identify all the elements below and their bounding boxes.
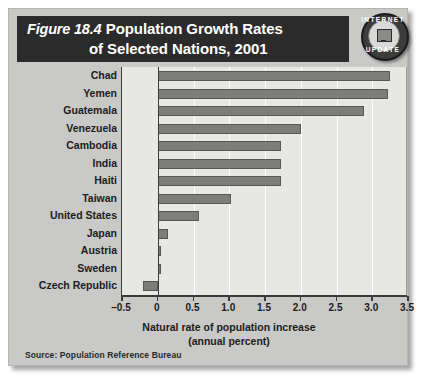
- x-tick-mark: [300, 296, 302, 301]
- bar-row: [122, 120, 406, 138]
- bar[interactable]: [158, 229, 169, 239]
- bar[interactable]: [158, 71, 390, 81]
- category-label: Haiti: [19, 173, 117, 191]
- x-tick-label: 2.0: [280, 302, 320, 313]
- bar[interactable]: [158, 159, 282, 169]
- bar-row: [122, 172, 406, 190]
- x-tick-label: –0.5: [101, 302, 141, 313]
- bar[interactable]: [158, 141, 282, 151]
- category-axis-labels: ChadYemenGuatemalaVenezuelaCambodiaIndia…: [19, 67, 117, 295]
- bar-row: [122, 137, 406, 155]
- x-tick-mark: [228, 296, 230, 301]
- figure-title-line-2: of Selected Nations, 2001: [27, 39, 343, 59]
- zero-reference-line: [158, 67, 160, 295]
- bar-row: [122, 67, 406, 85]
- x-tick-label: 1.5: [244, 302, 284, 313]
- figure-title-text-2: of Selected Nations, 2001: [89, 40, 267, 57]
- x-tick-label: 0.5: [173, 302, 213, 313]
- bar-row: [122, 242, 406, 260]
- bar-row: [122, 190, 406, 208]
- plot-area: [121, 67, 407, 295]
- x-tick-mark: [407, 296, 409, 301]
- x-axis-title-line-2: (annual percent): [89, 334, 369, 348]
- x-tick-label: 1.0: [208, 302, 248, 313]
- x-tick-mark: [121, 296, 123, 301]
- x-tick-label: 0: [137, 302, 177, 313]
- category-label: Czech Republic: [19, 278, 117, 296]
- bar-row: [122, 85, 406, 103]
- figure-title-text-1: Population Growth Rates: [106, 20, 283, 37]
- category-label: Guatemala: [19, 103, 117, 121]
- bar-row: [122, 277, 406, 295]
- figure-title-band: Figure 18.4 Population Growth Rates of S…: [17, 16, 349, 62]
- category-label: Yemen: [19, 86, 117, 104]
- bar-row: [122, 155, 406, 173]
- category-label: Sweden: [19, 261, 117, 279]
- bar[interactable]: [158, 106, 364, 116]
- x-tick-mark: [157, 296, 159, 301]
- bar[interactable]: [158, 194, 231, 204]
- bar[interactable]: [158, 124, 301, 134]
- badge-bottom-label: UPDATE: [359, 46, 407, 53]
- x-tick-label: 3.5: [387, 302, 422, 313]
- bar[interactable]: [158, 176, 282, 186]
- badge-top-label: INTERNET: [359, 16, 407, 23]
- category-label: India: [19, 156, 117, 174]
- category-label: Taiwan: [19, 191, 117, 209]
- category-label: Venezuela: [19, 121, 117, 139]
- bar-row: [122, 225, 406, 243]
- x-tick-label: 2.5: [316, 302, 356, 313]
- category-label: United States: [19, 208, 117, 226]
- bar[interactable]: [158, 211, 199, 221]
- x-tick-label: 3.0: [351, 302, 391, 313]
- category-label: Austria: [19, 243, 117, 261]
- computer-monitor-icon: [377, 29, 392, 42]
- category-label: Chad: [19, 68, 117, 86]
- x-tick-mark: [264, 296, 266, 301]
- bar[interactable]: [158, 89, 388, 99]
- category-label: Cambodia: [19, 138, 117, 156]
- internet-update-badge[interactable]: INTERNET UPDATE: [359, 11, 411, 63]
- x-tick-mark: [336, 296, 338, 301]
- bar-row: [122, 260, 406, 278]
- bar-row: [122, 207, 406, 225]
- bar[interactable]: [143, 281, 157, 291]
- category-label: Japan: [19, 226, 117, 244]
- x-axis-title: Natural rate of population increase (ann…: [89, 320, 369, 348]
- x-tick-mark: [193, 296, 195, 301]
- x-axis-title-line-1: Natural rate of population increase: [89, 320, 369, 334]
- x-tick-mark: [371, 296, 373, 301]
- x-axis-ticks: –0.500.51.01.52.02.53.03.5: [121, 295, 407, 317]
- bar-series: [122, 67, 406, 295]
- figure-card: Figure 18.4 Population Growth Rates of S…: [8, 8, 408, 366]
- figure-number: Figure 18.4: [27, 21, 101, 37]
- figure-title-line-1: Figure 18.4 Population Growth Rates: [27, 19, 343, 39]
- source-note: Source: Population Reference Bureau: [25, 350, 182, 360]
- bar-row: [122, 102, 406, 120]
